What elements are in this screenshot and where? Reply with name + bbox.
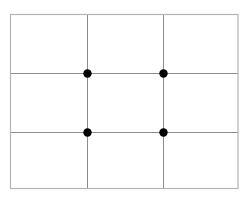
intersection-dot-2	[159, 69, 167, 77]
intersection-dot-4	[159, 128, 167, 136]
intersection-dot-3	[83, 128, 91, 136]
background	[0, 0, 252, 204]
rule-of-thirds-diagram	[0, 0, 252, 204]
intersection-dot-1	[83, 69, 91, 77]
